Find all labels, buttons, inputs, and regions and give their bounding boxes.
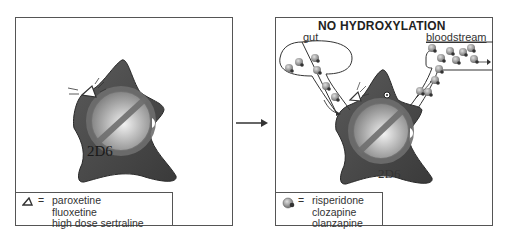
legend-drug-list: paroxetine fluoxetine high dose sertrali… — [52, 195, 144, 230]
legend-drug: paroxetine — [52, 195, 144, 207]
enzyme-label-left: 2D6 — [87, 143, 113, 160]
transition-arrow — [236, 119, 268, 127]
legend-drug: high dose sertraline — [52, 218, 144, 230]
triangle-icon — [22, 197, 34, 210]
legend-drug: olanzapine — [312, 218, 364, 230]
legend-drug-list: risperidone clozapine olanzapine — [312, 195, 364, 230]
legend-equals: = — [38, 195, 44, 207]
bloodstream-label: bloodstream — [426, 31, 487, 43]
legend-left: = paroxetine fluoxetine high dose sertra… — [15, 192, 173, 226]
molecule-icon — [282, 197, 296, 212]
drug-molecules-gut — [285, 54, 340, 102]
enzyme-label-right: 2D6 — [378, 166, 400, 182]
gut-compartment — [280, 41, 352, 116]
enzyme-2d6-left — [74, 60, 177, 182]
legend-equals: = — [298, 195, 304, 207]
gut-label: gut — [303, 31, 318, 43]
legend-right: = risperidone clozapine olanzapine — [275, 192, 383, 226]
legend-drug: risperidone — [312, 195, 364, 207]
